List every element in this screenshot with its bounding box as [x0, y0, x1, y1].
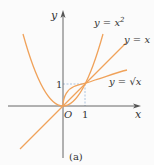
label-identity: y = x [123, 34, 150, 45]
y-axis-label: y [50, 9, 58, 22]
power-functions-figure: y x O 1 1 y = x2 y = x y = √x (a) [0, 0, 154, 165]
origin-label: O [64, 109, 72, 120]
x-axis-label: x [135, 108, 142, 121]
label-sqrt: y = √x [108, 76, 142, 87]
y-tick-label: 1 [56, 79, 62, 90]
label-x-squared: y = x2 [93, 16, 125, 28]
plot-canvas: y x O 1 1 y = x2 y = x y = √x (a) [0, 0, 154, 165]
x-tick-label: 1 [82, 109, 88, 120]
figure-caption: (a) [69, 151, 83, 162]
curve-identity [20, 43, 126, 149]
